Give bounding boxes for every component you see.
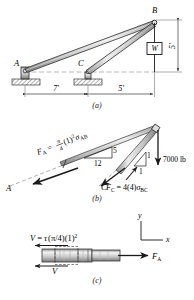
- eq-V-symbol: V: [30, 233, 37, 243]
- pin-head: [92, 250, 120, 261]
- panel-b: 12 5 1 1 A C 7000 lb FA= π 4 (1)2σAB: [5, 124, 186, 193]
- dim-label-5ft-v: 5': [168, 43, 177, 49]
- slope-AB-run-label: 12: [94, 159, 102, 168]
- member-AB: [25, 21, 156, 73]
- dimension-5ft-horizontal: 5': [89, 84, 153, 94]
- mechanics-figure: W A B C 7' 5' 5': [0, 0, 194, 300]
- force-arrow-FA: [33, 168, 78, 184]
- dim-label-7ft: 7': [53, 84, 59, 93]
- equation-shear: V=τ(π/4)(1)2: [30, 233, 78, 243]
- eq-FA-subscript: A: [41, 149, 47, 156]
- coordinate-axes: y x: [137, 211, 170, 244]
- panel-c: V=τ(π/4)(1)2 V FA y x: [30, 211, 170, 276]
- eq-FC-stress-sub: BC: [140, 187, 148, 193]
- fa-c-subscript: A: [157, 256, 161, 262]
- force-leader-FC: [126, 167, 137, 180]
- eq-FA-coef-den: 4: [59, 145, 64, 152]
- panel-a: W A B C 7' 5' 5': [12, 5, 182, 97]
- dim-label-5ft-h: 5': [118, 84, 124, 93]
- ground-hatch-C: [74, 79, 102, 85]
- caption-b: (b): [0, 194, 194, 203]
- eq-FA-equals: =: [46, 143, 54, 153]
- eq-FA-stress-sub: AB: [79, 133, 89, 141]
- dimension-7ft: 7': [26, 84, 87, 94]
- member-BC: [86, 23, 156, 74]
- caption-a: (a): [0, 101, 194, 110]
- eq-FA-coef-num: π: [56, 138, 62, 145]
- eq-FC-term: 4(4): [123, 183, 137, 192]
- weight-label: W: [151, 44, 158, 53]
- figure-svg: W A B C 7' 5' 5': [0, 0, 194, 300]
- eq-V-equals: =: [37, 233, 42, 243]
- axis-x-label: x: [165, 235, 170, 244]
- eq-V-exponent: 2: [75, 233, 78, 239]
- label-point-A: A: [13, 58, 20, 68]
- caption-c: (c): [0, 276, 194, 285]
- pin-body: [42, 247, 120, 265]
- shear-label-lower: V: [52, 266, 59, 276]
- label-point-B: B: [152, 5, 157, 15]
- pin-shank: [42, 249, 92, 262]
- eq-V-term: (1): [65, 233, 75, 243]
- axis-y-label: y: [137, 211, 142, 220]
- force-label-FA-panel-c: FA: [151, 251, 161, 262]
- label-point-C: C: [78, 58, 84, 68]
- eq-V-area: (π/4): [48, 233, 65, 243]
- slope-BC-rise-label: 1: [147, 151, 151, 160]
- equation-FC: FC=4(4)σBC: [105, 183, 148, 193]
- svg-text:FA=: FA=: [35, 143, 54, 158]
- load-label-7000lb: 7000 lb: [163, 155, 186, 164]
- svg-text:(1)2σAB: (1)2σAB: [62, 128, 89, 147]
- member-AB-highlight: [26, 22, 155, 70]
- member-AB-body: [25, 21, 156, 73]
- eq-FC-subscript: C: [111, 187, 115, 193]
- slope-BC-run-label: 1: [139, 167, 143, 176]
- ground-hatch-A: [12, 79, 40, 85]
- member-BC-highlight: [88, 25, 154, 72]
- slope-AB-rise-label: 5: [113, 146, 117, 155]
- eq-FC-equals: =: [117, 183, 122, 192]
- svg-text:FC=4(4)σBC: FC=4(4)σBC: [105, 183, 148, 193]
- fbd-label-point-A: A: [5, 183, 12, 193]
